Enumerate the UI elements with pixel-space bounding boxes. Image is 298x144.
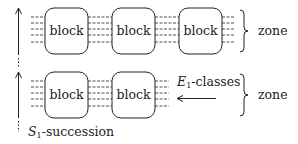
block-bottom-1-label: block	[49, 87, 84, 102]
succession-arrow-bottom	[16, 72, 22, 132]
succession-label-rest: -succession	[42, 124, 115, 139]
zone-label-bottom: zone	[258, 87, 288, 102]
succession-label-main: S	[28, 124, 37, 139]
block-top-3-label: block	[183, 23, 218, 38]
classes-label: E1-classes	[176, 74, 241, 90]
succession-arrow-top	[16, 8, 22, 68]
zone-brace-bottom	[240, 74, 248, 116]
classes-arrow	[177, 96, 216, 102]
block-top-2-label: block	[116, 23, 151, 38]
succession-label: S1-succession	[28, 124, 114, 140]
classes-label-main: E	[176, 74, 186, 89]
zone-label-top: zone	[258, 23, 288, 38]
diagram-canvas: block block block block block zone zone …	[0, 0, 298, 144]
block-bottom-2-label: block	[116, 87, 151, 102]
block-top-1-label: block	[49, 23, 84, 38]
zone-brace-top	[240, 10, 248, 52]
classes-label-rest: -classes	[191, 74, 240, 89]
